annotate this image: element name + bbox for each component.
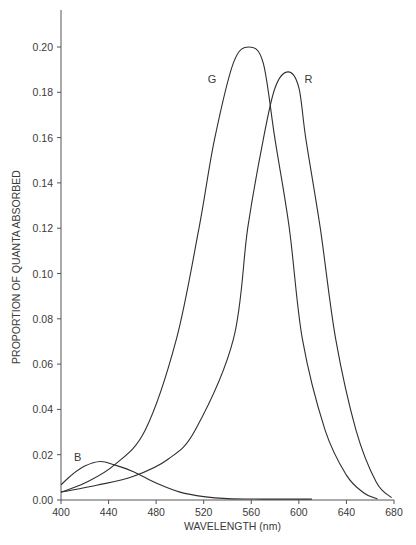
- y-tick-label: 0.00: [33, 494, 54, 506]
- y-tick-label: 0.06: [33, 358, 54, 370]
- curve-g: [61, 47, 377, 499]
- y-tick-label: 0.12: [33, 222, 54, 234]
- y-tick-label: 0.14: [33, 177, 54, 189]
- x-tick-label: 560: [243, 506, 261, 518]
- y-axis-ticks: 0.000.020.040.060.080.100.120.140.160.18…: [33, 41, 61, 506]
- y-tick-label: 0.02: [33, 449, 54, 461]
- x-axis-ticks: 400440480520560600640680: [52, 500, 403, 518]
- x-axis-title: WAVELENGTH (nm): [184, 520, 281, 532]
- x-tick-label: 680: [385, 506, 403, 518]
- x-tick-label: 520: [195, 506, 213, 518]
- x-tick-label: 480: [147, 506, 165, 518]
- y-tick-label: 0.20: [33, 41, 54, 53]
- curve-b: [61, 461, 312, 499]
- y-tick-label: 0.08: [33, 313, 54, 325]
- curve-labels: BGR: [74, 73, 312, 463]
- y-tick-label: 0.16: [33, 132, 54, 144]
- y-tick-label: 0.18: [33, 86, 54, 98]
- curves: [61, 47, 392, 499]
- curve-r: [61, 72, 392, 498]
- x-tick-label: 600: [290, 506, 308, 518]
- curve-label-r: R: [304, 73, 312, 85]
- y-tick-label: 0.04: [33, 403, 54, 415]
- x-tick-label: 400: [52, 506, 70, 518]
- absorption-spectrum-chart: 400440480520560600640680 0.000.020.040.0…: [0, 0, 416, 545]
- y-axis-title: PROPORTION OF QUANTA ABSORBED: [10, 170, 22, 364]
- x-tick-label: 640: [338, 506, 356, 518]
- curve-label-b: B: [74, 451, 81, 463]
- curve-label-g: G: [208, 73, 217, 85]
- x-tick-label: 440: [100, 506, 118, 518]
- y-tick-label: 0.10: [33, 268, 54, 280]
